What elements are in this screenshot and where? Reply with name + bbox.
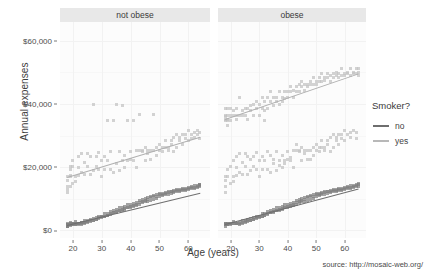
legend-label-yes: yes (395, 136, 408, 146)
data-point (244, 152, 247, 155)
data-point (318, 150, 321, 153)
data-point (278, 164, 281, 167)
data-point (246, 118, 249, 121)
data-point (261, 155, 264, 158)
data-point (198, 183, 201, 186)
data-point (132, 159, 135, 162)
data-point (263, 100, 266, 103)
data-point (349, 136, 352, 139)
data-point (244, 165, 247, 168)
data-point (272, 162, 275, 165)
data-point (337, 143, 340, 146)
legend: Smoker? no yes (372, 100, 427, 148)
data-point (278, 103, 281, 106)
data-point (252, 155, 255, 158)
data-point (224, 191, 227, 194)
y-axis-tick: $0 (43, 226, 57, 235)
data-point (286, 150, 289, 153)
data-point (172, 150, 175, 153)
data-point (292, 166, 295, 169)
data-point (235, 107, 238, 110)
data-point (289, 159, 292, 162)
legend-item-yes[interactable]: yes (372, 133, 427, 148)
data-point (69, 185, 72, 188)
data-point (80, 152, 83, 155)
data-point (97, 168, 100, 171)
data-point (126, 119, 129, 122)
data-point (258, 175, 261, 178)
data-point (289, 85, 292, 88)
data-point (112, 119, 115, 122)
data-point (89, 155, 92, 158)
data-point (77, 155, 80, 158)
data-point (112, 171, 115, 174)
data-point (309, 158, 312, 161)
data-point (320, 139, 323, 142)
data-point (289, 156, 292, 159)
data-point (318, 76, 321, 79)
gridline-vertical (73, 22, 74, 238)
data-point (77, 166, 80, 169)
data-point (95, 155, 98, 158)
data-point (167, 149, 170, 152)
data-point (263, 159, 266, 162)
data-point (115, 103, 118, 106)
data-point (83, 161, 86, 164)
data-point (340, 67, 343, 70)
data-point (198, 131, 201, 134)
y-axis-tick: $40,000 (23, 99, 57, 108)
data-point (272, 158, 275, 161)
data-point (106, 159, 109, 162)
panel-obese (218, 22, 366, 238)
data-point (155, 154, 158, 157)
data-point (123, 166, 126, 169)
data-point (100, 159, 103, 162)
data-point (232, 159, 235, 162)
gridline-vertical (102, 22, 103, 238)
legend-label-no: no (395, 121, 404, 131)
data-point (340, 133, 343, 136)
data-point (241, 173, 244, 176)
data-point (357, 185, 360, 188)
data-point (152, 113, 155, 116)
data-point (263, 109, 266, 112)
data-point (249, 169, 252, 172)
data-point (315, 83, 318, 86)
data-point (281, 166, 284, 169)
data-point (258, 114, 261, 117)
data-point (235, 118, 238, 121)
data-point (123, 154, 126, 157)
data-point (184, 133, 187, 136)
legend-item-no[interactable]: no (372, 118, 427, 133)
data-point (149, 158, 152, 161)
regression-line-no (225, 188, 359, 225)
data-point (329, 136, 332, 139)
data-point (238, 152, 241, 155)
y-axis: $0$20,000$40,000$60,000 (0, 0, 57, 273)
gridline-vertical (259, 22, 260, 238)
data-point (118, 169, 121, 172)
data-point (232, 109, 235, 112)
data-point (303, 149, 306, 152)
data-point (355, 137, 358, 140)
data-point (161, 150, 164, 153)
data-point (121, 104, 124, 107)
data-point (92, 103, 95, 106)
panel-strip-label: obese (280, 10, 303, 20)
y-axis-tick-label: $20,000 (23, 163, 52, 172)
data-point (349, 67, 352, 70)
data-point (295, 143, 298, 146)
data-point (329, 150, 332, 153)
gridline-vertical (316, 22, 317, 238)
data-point (303, 152, 306, 155)
data-point (269, 90, 272, 93)
data-point (357, 67, 360, 70)
data-point (226, 175, 229, 178)
data-point (244, 114, 247, 117)
data-point (278, 159, 281, 162)
data-point (258, 159, 261, 162)
data-point (66, 191, 69, 194)
data-point (86, 165, 89, 168)
panel-strip-obese: obese (218, 8, 366, 22)
data-point (272, 104, 275, 107)
